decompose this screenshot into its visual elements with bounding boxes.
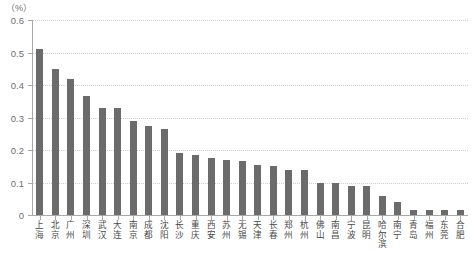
x-axis-tick-label: 南京	[127, 221, 139, 240]
bar	[441, 210, 448, 215]
bar	[363, 186, 370, 215]
bar	[457, 210, 464, 215]
x-axis-tick-label: 北京	[49, 221, 61, 240]
bar	[270, 166, 277, 215]
y-axis-tick-mark	[28, 53, 32, 54]
bar	[99, 108, 106, 215]
x-axis-tick-label: 重庆	[190, 221, 202, 240]
x-axis-tick-label: 上海	[34, 221, 46, 240]
y-axis-tick-mark	[28, 20, 32, 21]
y-axis-tick-label: 0.6	[11, 15, 24, 26]
x-axis-tick-label: 佛山	[314, 221, 326, 240]
y-axis-tick-label: 0.3	[11, 112, 24, 123]
bar-series	[32, 20, 468, 215]
x-axis-tick-label: 武汉	[96, 221, 108, 240]
bar	[67, 79, 74, 216]
bar-chart: （%） 0.60.50.40.30.20.10 上海北京广州深圳武汉大连南京成都…	[0, 0, 472, 259]
x-axis-tick-label: 杭州	[299, 221, 311, 240]
bar	[301, 170, 308, 216]
x-axis-tick-label: 成都	[143, 221, 155, 240]
y-axis-tick-mark	[28, 118, 32, 119]
bar	[223, 160, 230, 215]
bar	[332, 183, 339, 216]
x-axis-tick-label: 青岛	[408, 221, 420, 240]
y-axis-tick-mark	[28, 150, 32, 151]
y-axis-tick-mark	[28, 215, 32, 216]
bar	[52, 69, 59, 215]
bar	[410, 210, 417, 215]
x-axis-tick-label: 天津	[252, 221, 264, 240]
bar	[192, 155, 199, 215]
bar	[317, 183, 324, 216]
y-axis-tick-mark	[28, 183, 32, 184]
bar	[285, 170, 292, 216]
y-axis-tick-label: 0.1	[11, 177, 24, 188]
x-axis-tick-label: 无锡	[236, 221, 248, 240]
x-axis-tick-label: 宁波	[345, 221, 357, 240]
x-axis-tick-label: 广州	[65, 221, 77, 240]
x-axis-tick-label: 哈尔滨	[376, 221, 388, 250]
y-axis-tick-mark	[28, 85, 32, 86]
y-axis-labels: 0.60.50.40.30.20.10	[0, 20, 30, 215]
x-axis-tick-label: 大连	[112, 221, 124, 240]
x-axis-tick-label: 南宁	[392, 221, 404, 240]
bar	[114, 108, 121, 215]
y-axis-tick-label: 0	[19, 210, 24, 221]
bar	[239, 161, 246, 215]
bar	[36, 49, 43, 215]
x-axis-tick-label: 苏州	[221, 221, 233, 240]
bar	[254, 165, 261, 215]
bar	[83, 96, 90, 215]
bar	[348, 186, 355, 215]
bar	[394, 202, 401, 215]
x-axis-tick-label: 沈阳	[158, 221, 170, 240]
y-axis-tick-label: 0.4	[11, 80, 24, 91]
x-axis-tick-label: 昆明	[361, 221, 373, 240]
bar	[379, 196, 386, 216]
axis-unit-label: （%）	[6, 1, 32, 14]
x-axis-labels: 上海北京广州深圳武汉大连南京成都沈阳长沙重庆西安苏州无锡天津长春郑州杭州佛山南昌…	[32, 221, 468, 259]
bar	[426, 210, 433, 215]
x-axis-tick-label: 郑州	[283, 221, 295, 240]
x-axis-tick-label: 南昌	[330, 221, 342, 240]
x-axis-tick-label: 西安	[205, 221, 217, 240]
x-axis-tick-label: 东莞	[439, 221, 451, 240]
bar	[208, 158, 215, 215]
x-axis-tick-label: 长春	[267, 221, 279, 240]
bar	[130, 121, 137, 215]
x-axis-tick-label: 深圳	[81, 221, 93, 240]
y-axis-tick-label: 0.5	[11, 47, 24, 58]
x-axis-tick-label: 长沙	[174, 221, 186, 240]
bar	[161, 129, 168, 215]
y-axis-tick-label: 0.2	[11, 145, 24, 156]
x-axis-tick-label: 合肥	[454, 221, 466, 240]
bar	[145, 126, 152, 215]
bar	[176, 153, 183, 215]
x-axis-tick-label: 福州	[423, 221, 435, 240]
